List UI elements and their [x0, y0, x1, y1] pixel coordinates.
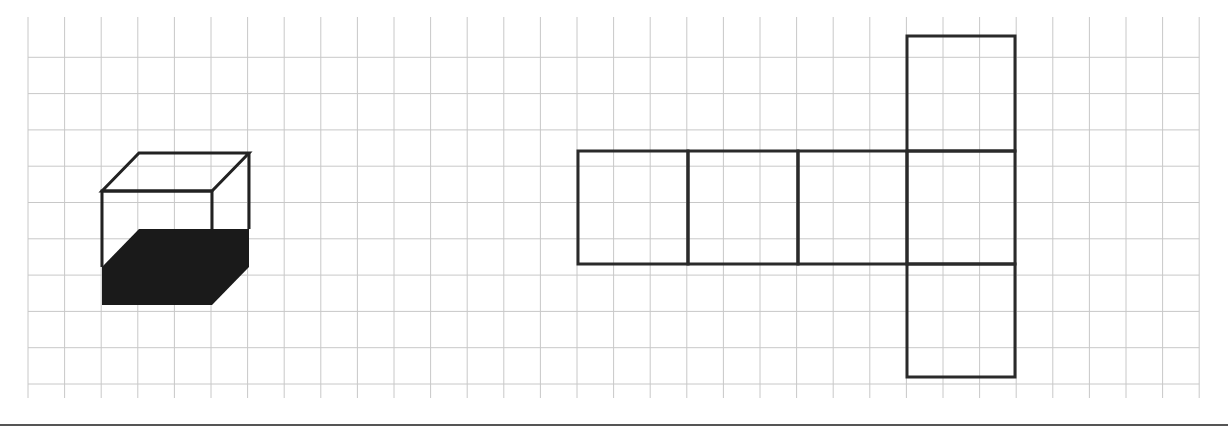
cuboid-top-face — [102, 153, 249, 191]
net-face — [798, 151, 907, 264]
cuboid-container — [102, 153, 249, 305]
net-face — [688, 151, 798, 264]
net-face — [907, 264, 1015, 377]
liquid-fill — [102, 229, 249, 305]
net-face — [578, 151, 688, 264]
net-face — [907, 151, 1015, 264]
grid-paper — [28, 17, 1199, 398]
diagram-canvas — [0, 0, 1228, 439]
